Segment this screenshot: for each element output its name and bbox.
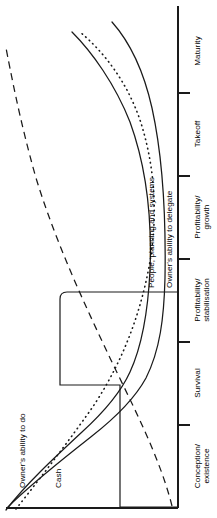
x-axis-label-profitability-stabilisation: Profitability/ stabilisation: [193, 259, 212, 341]
x-axis-label-conception-existence: Conception/ existence: [193, 425, 212, 507]
x-axis-label-takeoff: Takeoff: [193, 93, 202, 175]
x-axis-label-profitability-growth: Profitability/ growth: [193, 176, 212, 258]
series-cash: [8, 22, 165, 507]
chart-stage: Conception/ existence Survival Profitabi…: [0, 0, 217, 518]
series-annotation-owner-ability-to-delegate: Owner's ability to delegate: [165, 191, 174, 288]
x-axis-label-survival: Survival: [193, 342, 202, 424]
series-annotation-owner-ability-to-do: Owner's ability to do: [18, 413, 27, 488]
rotated-figure-container: Conception/ existence Survival Profitabi…: [0, 0, 217, 518]
zone-step-path: [60, 292, 177, 507]
series-owner-ability-to-delegate: [16, 32, 154, 509]
x-axis-ticks: [178, 93, 190, 425]
series-annotation-people-planning-systems: People, planning and systems: [147, 177, 156, 288]
x-axis-label-maturity: Maturity: [193, 10, 202, 92]
series-people-planning-systems: [6, 32, 150, 510]
series-annotation-cash: Cash: [54, 469, 63, 488]
zone-step-outline: [60, 292, 177, 507]
chart-plot-area: [0, 0, 217, 518]
